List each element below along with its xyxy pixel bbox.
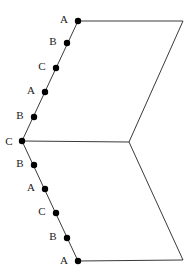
- point-marker-p4: [42, 89, 48, 95]
- point-marker-p8: [42, 186, 48, 192]
- point-marker-p10: [64, 235, 70, 241]
- interior-segment: [22, 141, 129, 142]
- middle-horizontal-line: [22, 141, 129, 142]
- point-marker-p9: [53, 210, 59, 216]
- geometry-figure: ABCABCBACBA: [0, 0, 195, 280]
- point-marker-p1: [75, 18, 81, 24]
- point-marker-p3: [53, 65, 59, 71]
- point-marker-p11: [75, 258, 81, 264]
- figure-canvas: [0, 0, 195, 280]
- point-marker-p5: [31, 114, 37, 120]
- point-marker-p2: [64, 40, 70, 46]
- point-marker-p6: [19, 138, 25, 144]
- point-marker-p7: [31, 162, 37, 168]
